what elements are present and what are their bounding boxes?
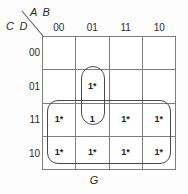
left-axis-label: C D (6, 20, 29, 32)
cell-value: 1* (155, 115, 164, 124)
cell-value: 1* (55, 115, 64, 124)
cell-value: 1* (155, 148, 164, 157)
kmap-figure: A B C D 00 01 11 10 00 01 11 10 1* 1* 1 … (0, 0, 188, 194)
row-header-00: 00 (16, 36, 40, 70)
column-header-11: 11 (109, 20, 143, 36)
column-header-00: 00 (42, 20, 76, 36)
cell-value: 1* (121, 148, 130, 157)
cell-value: 1* (55, 148, 64, 157)
function-label: G (0, 174, 188, 186)
kmap-cell[interactable] (143, 70, 176, 103)
cell-value: 1* (121, 115, 130, 124)
column-header-01: 01 (76, 20, 110, 36)
row-header-01: 01 (16, 70, 40, 104)
row-header-10: 10 (16, 137, 40, 171)
row-header-11: 11 (16, 103, 40, 137)
kmap-cell[interactable] (143, 37, 176, 70)
column-header-row: 00 01 11 10 (42, 20, 176, 36)
kmap-cell[interactable] (43, 70, 76, 103)
row-header-column: 00 01 11 10 (16, 36, 40, 170)
kmap-cell[interactable] (43, 37, 76, 70)
kmap-cell[interactable] (110, 70, 143, 103)
cell-value: 1* (88, 148, 97, 157)
top-axis-label: A B (30, 6, 51, 18)
kmap-cell[interactable] (110, 37, 143, 70)
cell-value: 1* (88, 82, 97, 91)
cell-value: 1 (90, 115, 95, 124)
group-outline-two-row-block (47, 100, 171, 164)
column-header-10: 10 (143, 20, 177, 36)
